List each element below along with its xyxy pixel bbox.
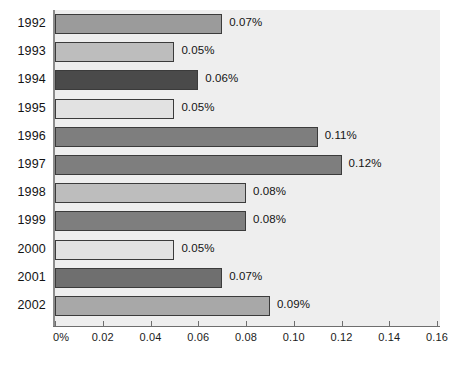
bar	[55, 183, 246, 203]
bar-row: 20000.05%	[0, 240, 458, 260]
category-label: 1996	[0, 129, 46, 143]
x-tick-mark	[437, 321, 438, 327]
category-label: 1998	[0, 185, 46, 199]
x-tick-label: 0.02	[92, 331, 114, 343]
bar-value-label: 0.05%	[181, 44, 214, 56]
category-label: 2002	[0, 298, 46, 312]
bar-row: 19960.11%	[0, 127, 458, 147]
bar-row: 20020.09%	[0, 296, 458, 316]
x-tick-label: 0.08	[235, 331, 257, 343]
x-tick-mark	[55, 321, 56, 327]
bar	[55, 211, 246, 231]
bar	[55, 296, 270, 316]
category-label: 1999	[0, 213, 46, 227]
x-tick-label: 0.10	[283, 331, 305, 343]
bar	[55, 42, 174, 62]
x-tick-label: 0.06	[187, 331, 209, 343]
bar-value-label: 0.05%	[181, 242, 214, 254]
category-label: 1995	[0, 101, 46, 115]
category-label: 1993	[0, 44, 46, 58]
x-tick-label: 0.04	[140, 331, 162, 343]
x-tick-mark	[151, 321, 152, 327]
bar-value-label: 0.09%	[277, 298, 310, 310]
x-tick-mark	[103, 321, 104, 327]
bar-row: 19980.08%	[0, 183, 458, 203]
bar-chart: 19920.07%19930.05%19940.06%19950.05%1996…	[0, 0, 458, 366]
category-label: 1994	[0, 72, 46, 86]
bar	[55, 155, 342, 175]
bar-row: 19930.05%	[0, 42, 458, 62]
category-label: 2000	[0, 242, 46, 256]
bar-value-label: 0.06%	[205, 72, 238, 84]
x-tick-label: 0.14	[378, 331, 400, 343]
bar-value-label: 0.08%	[253, 213, 286, 225]
x-tick-label: 0.16	[426, 331, 448, 343]
bar-value-label: 0.05%	[181, 101, 214, 113]
bar	[55, 70, 198, 90]
x-tick-mark	[342, 321, 343, 327]
bar-value-label: 0.07%	[229, 16, 262, 28]
bar-value-label: 0.11%	[325, 129, 357, 141]
bar-row: 19950.05%	[0, 99, 458, 119]
bar-value-label: 0.08%	[253, 185, 286, 197]
category-label: 2001	[0, 270, 46, 284]
bar-value-label: 0.07%	[229, 270, 262, 282]
bar-row: 19970.12%	[0, 155, 458, 175]
bar-value-label: 0.12%	[349, 157, 382, 169]
bar-row: 19940.06%	[0, 70, 458, 90]
x-tick-mark	[294, 321, 295, 327]
bar	[55, 127, 318, 147]
x-tick-mark	[389, 321, 390, 327]
category-label: 1997	[0, 157, 46, 171]
bar	[55, 240, 174, 260]
category-label: 1992	[0, 16, 46, 30]
bar-row: 19920.07%	[0, 14, 458, 34]
x-tick-mark	[198, 321, 199, 327]
bar	[55, 14, 222, 34]
bar	[55, 268, 222, 288]
bar-row: 20010.07%	[0, 268, 458, 288]
x-tick-label: 0.12	[331, 331, 353, 343]
bar	[55, 99, 174, 119]
bar-row: 19990.08%	[0, 211, 458, 231]
x-tick-mark	[246, 321, 247, 327]
x-tick-label: 0%	[53, 331, 69, 343]
